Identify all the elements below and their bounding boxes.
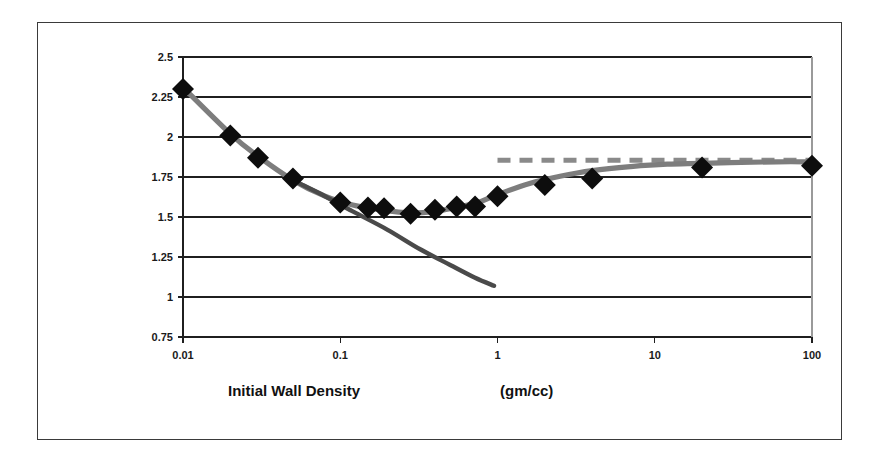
x-axis-tick-label: 0.01: [172, 349, 193, 361]
x-axis-tick-label: 1: [494, 349, 500, 361]
x-axis-units-label: (gm/cc): [500, 382, 553, 399]
y-axis-tick-label: 0.75: [152, 331, 173, 343]
data-point-marker: [400, 203, 422, 225]
x-axis-tick-label: 0.1: [333, 349, 348, 361]
y-axis-tick-label: 1: [167, 291, 173, 303]
x-axis-title: Initial Wall Density: [228, 382, 361, 399]
x-axis-tick-label: 100: [803, 349, 821, 361]
data-point-marker: [691, 156, 713, 178]
y-axis-tick-label: 1.5: [158, 211, 173, 223]
data-point-marker: [801, 155, 823, 177]
descending-branch-line: [299, 183, 494, 285]
y-axis-tick-label: 2.25: [152, 91, 173, 103]
series-data-markers: [172, 78, 823, 225]
x-axis-tick-labels: 0.010.1110100: [172, 349, 821, 361]
y-axis-tick-labels: 2.52.2521.751.51.2510.75: [152, 51, 173, 343]
data-point-marker: [373, 197, 395, 219]
y-axis-tick-label: 1.25: [152, 251, 173, 263]
screenshot-page: 2.52.2521.751.51.2510.75 0.010.1110100 I…: [0, 0, 869, 466]
y-axis-tick-label: 2.5: [158, 51, 173, 63]
y-axis-tick-label: 2: [167, 131, 173, 143]
chart-canvas: 2.52.2521.751.51.2510.75 0.010.1110100 I…: [0, 0, 869, 466]
series-descending-branch: [299, 183, 494, 285]
x-axis-tick-label: 10: [649, 349, 661, 361]
y-axis-tick-label: 1.75: [152, 171, 173, 183]
data-point-marker: [487, 185, 509, 207]
